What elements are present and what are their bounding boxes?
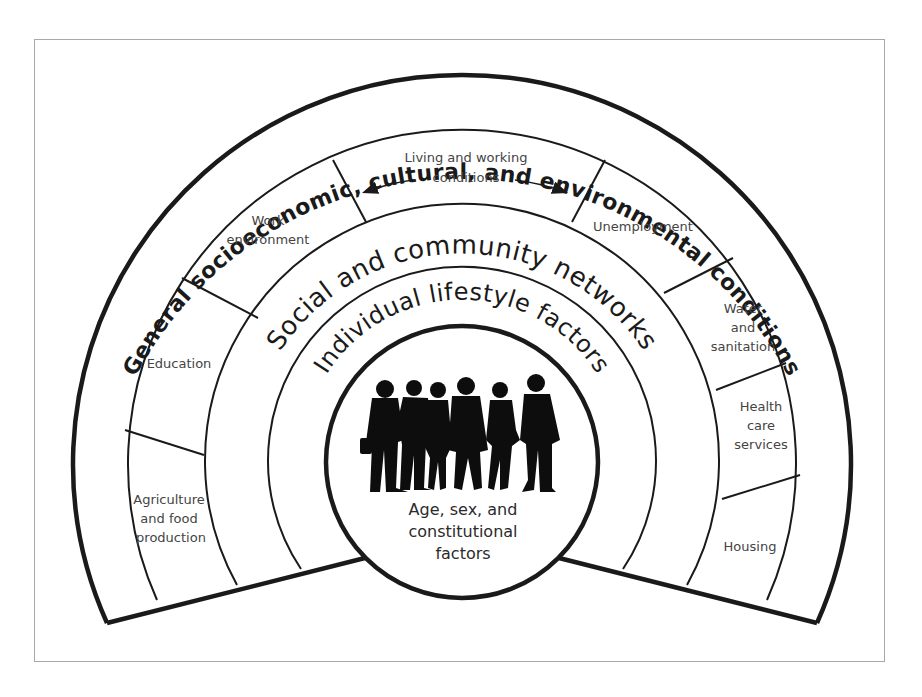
svg-text:Housing: Housing [724,539,777,554]
svg-text:environment: environment [227,232,310,247]
svg-text:care: care [747,418,775,433]
svg-text:services: services [734,437,788,452]
living-working-line2: conditions [433,170,500,185]
segment-education: Education [147,356,212,371]
determinants-of-health-diagram: General socioeconomic, cultural, and env… [0,0,922,697]
segment-health-care: Health care services [734,399,788,452]
svg-text:constitutional: constitutional [408,522,517,541]
outer-layer-label: General socioeconomic, cultural, and env… [118,159,806,380]
segment-agriculture: Agriculture and food production [133,492,206,545]
svg-text:Health: Health [740,399,783,414]
svg-text:sanitation: sanitation [711,339,776,354]
svg-text:Water: Water [724,301,763,316]
svg-text:Education: Education [147,356,212,371]
svg-text:and food: and food [140,511,197,526]
core-label: Age, sex, and constitutional factors [408,500,517,563]
svg-text:Age, sex, and: Age, sex, and [409,500,518,519]
svg-text:Agriculture: Agriculture [133,492,205,507]
people-silhouette-icon [360,374,560,492]
svg-text:and: and [731,320,755,335]
segment-housing: Housing [724,539,777,554]
svg-text:Work: Work [252,213,285,228]
svg-text:Unemployment: Unemployment [593,219,693,234]
baseline-left [107,558,365,623]
svg-text:factors: factors [435,544,490,563]
svg-text:production: production [136,530,206,545]
segment-unemployment: Unemployment [593,219,693,234]
baseline-right [559,558,817,623]
living-working-line1: Living and working [405,150,528,165]
